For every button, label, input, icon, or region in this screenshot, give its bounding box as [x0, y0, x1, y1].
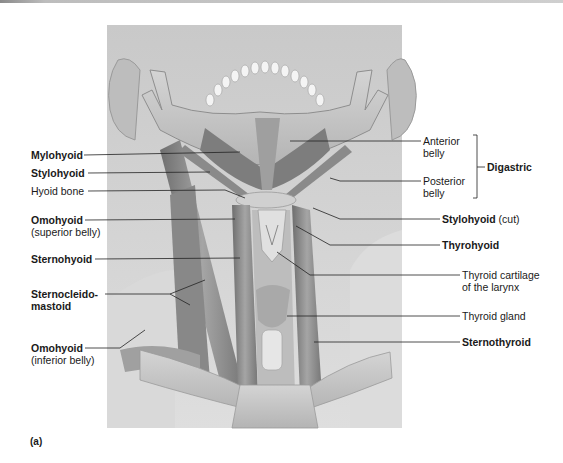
- label-thyroid-gland: Thyroid gland: [462, 310, 526, 322]
- label-thyroid-cartilage: Thyroid cartilage of the larynx: [462, 269, 540, 293]
- label-sternothyroid: Sternothyroid: [462, 336, 531, 348]
- label-subtext: (superior belly): [31, 226, 100, 238]
- label-stylohyoid: Stylohyoid: [31, 167, 85, 179]
- label-text: Thyroid gland: [462, 310, 526, 322]
- label-subtext: mastoid: [31, 300, 98, 312]
- label-posterior-belly: Posterior belly: [423, 175, 465, 199]
- label-text: Hyoid bone: [31, 185, 84, 197]
- label-anterior-belly: Anterior belly: [423, 135, 460, 159]
- label-text: Omohyoid: [31, 214, 100, 226]
- label-subtext: (inferior belly): [31, 354, 95, 366]
- label-stylohyoid-cut: Stylohyoid (cut): [442, 213, 520, 225]
- label-text: Mylohyoid: [31, 149, 83, 161]
- label-hyoid-bone: Hyoid bone: [31, 185, 84, 197]
- label-text: Sternocleido-: [31, 288, 98, 300]
- label-text: Stylohyoid: [31, 167, 85, 179]
- label-text: Stylohyoid: [442, 213, 496, 225]
- label-subtext: belly: [423, 147, 460, 159]
- label-text: Anterior: [423, 135, 460, 147]
- label-text: Digastric: [487, 161, 532, 173]
- label-text: Sternothyroid: [462, 336, 531, 348]
- label-text: Thyroid cartilage: [462, 269, 540, 281]
- label-digastric: Digastric: [487, 161, 532, 173]
- label-subtext: belly: [423, 187, 465, 199]
- label-mylohyoid: Mylohyoid: [31, 149, 83, 161]
- label-sternocleidomastoid: Sternocleido- mastoid: [31, 288, 98, 312]
- label-text: Omohyoid: [31, 342, 95, 354]
- label-text: Thyrohyoid: [442, 239, 499, 251]
- label-text: Posterior: [423, 175, 465, 187]
- label-omohyoid-inferior: Omohyoid (inferior belly): [31, 342, 95, 366]
- label-omohyoid-superior: Omohyoid (superior belly): [31, 214, 100, 238]
- label-subtext: of the larynx: [462, 281, 540, 293]
- panel-label: (a): [30, 436, 42, 447]
- label-thyrohyoid: Thyrohyoid: [442, 239, 499, 251]
- label-text: Sternohyoid: [31, 253, 92, 265]
- label-suffix: (cut): [496, 213, 520, 225]
- label-sternohyoid: Sternohyoid: [31, 253, 92, 265]
